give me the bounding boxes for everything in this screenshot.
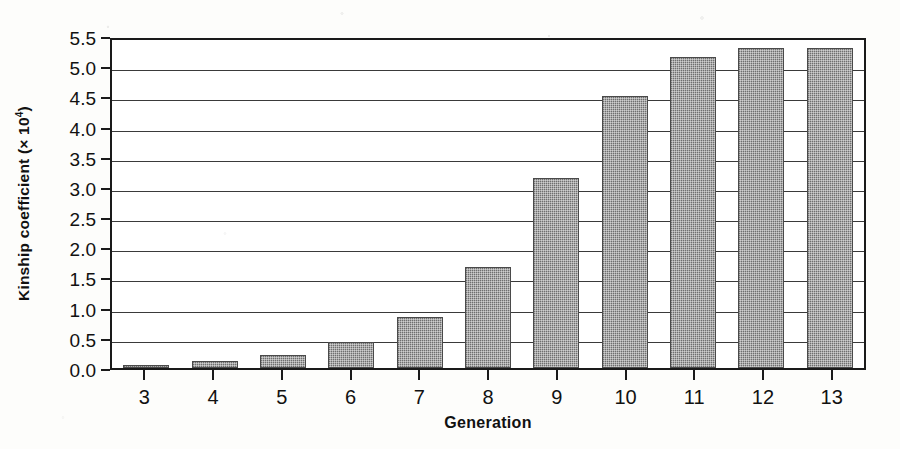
y-axis-tick-label: 1.0 [70,300,96,319]
x-axis-tick-label: 8 [454,384,523,410]
x-axis-tick-slot [385,370,454,384]
x-axis-tick-mark [212,370,214,380]
x-axis-tick-mark [281,370,283,380]
bar-slot [112,40,180,368]
y-axis-tick-mark [101,37,110,39]
x-axis-tick-labels: 345678910111213 [110,384,866,410]
x-axis-tick-slot [591,370,660,384]
y-axis-tick-mark [101,339,110,341]
x-axis-tick-mark [350,370,352,380]
x-axis-tick-mark [487,370,489,380]
y-axis-tick-label: 0.5 [70,330,96,349]
bar-slot [591,40,659,368]
x-axis-tick-label: 9 [522,384,591,410]
bar-chart-figure: Kinship coefficient (× 104) 0.00.51.01.5… [0,0,900,449]
x-axis-tick-slot [454,370,523,384]
y-axis-tick-label: 2.0 [70,240,96,259]
x-axis-tick-label: 5 [247,384,316,410]
bar[interactable] [192,361,238,368]
x-axis-tick-slot [179,370,248,384]
bar-slot [180,40,248,368]
bar-slot [522,40,590,368]
bar-slot [727,40,795,368]
y-axis-title-paren: ) [15,107,32,112]
x-axis-tick-mark [418,370,420,380]
bar-slot [317,40,385,368]
x-axis-tick-mark [762,370,764,380]
x-axis-tick-mark [693,370,695,380]
y-axis-title-main: Kinship coefficient (× 10 [15,118,32,302]
y-axis-tick-mark [101,67,110,69]
y-axis-tick-label: 2.5 [70,210,96,229]
x-axis-tick-slot [247,370,316,384]
y-axis-tick-mark [101,158,110,160]
x-axis-tick-slot [729,370,798,384]
y-axis-tick-label: 5.0 [70,59,96,78]
bar[interactable] [807,48,853,368]
bar[interactable] [602,96,648,368]
x-axis-tick-label: 11 [660,384,729,410]
x-axis-tick-label: 13 [797,384,866,410]
bar[interactable] [670,57,716,368]
y-axis-tick-label: 4.5 [70,89,96,108]
bar[interactable] [123,365,169,368]
y-axis-tick-mark [101,128,110,130]
y-axis-tick-label: 3.5 [70,149,96,168]
x-axis-tick-slot [797,370,866,384]
x-axis-tick-mark [625,370,627,380]
plot-area [110,38,866,370]
y-axis-tick-mark [101,188,110,190]
x-axis-tick-slot [316,370,385,384]
bar[interactable] [465,267,511,368]
y-axis-tick-mark [101,278,110,280]
y-axis-tick-label: 5.5 [70,29,96,48]
x-axis-tick-label: 6 [316,384,385,410]
x-axis-tick-slot [522,370,591,384]
x-axis-title: Generation [110,414,866,432]
y-axis-tick-mark [101,97,110,99]
x-axis-tick-label: 3 [110,384,179,410]
y-axis-tick-label: 0.0 [70,361,96,380]
x-axis-tick-marks [110,370,866,384]
x-axis-tick-mark [831,370,833,380]
y-axis-tick-mark [101,248,110,250]
x-axis-tick-slot [110,370,179,384]
y-axis-tick-mark [101,218,110,220]
bar[interactable] [328,342,374,368]
bar-slot [385,40,453,368]
y-axis-title-exponent: 4 [13,112,24,118]
bar-slot [659,40,727,368]
bar[interactable] [738,48,784,368]
bar-slot [796,40,864,368]
x-axis-tick-mark [143,370,145,380]
x-axis-tick-label: 10 [591,384,660,410]
y-axis-tick-mark [101,369,110,371]
bar[interactable] [397,317,443,368]
x-axis-tick-label: 4 [179,384,248,410]
bar-slot [454,40,522,368]
y-axis-title-text: Kinship coefficient (× 104) [13,107,32,302]
x-axis-tick-label: 7 [385,384,454,410]
bar[interactable] [260,355,306,368]
x-axis-tick-label: 12 [729,384,798,410]
y-axis-tick-label: 4.0 [70,119,96,138]
bar-series [112,40,864,368]
y-axis-title: Kinship coefficient (× 104) [6,38,40,370]
y-axis-tick-label: 1.5 [70,270,96,289]
bar[interactable] [533,178,579,368]
x-axis-tick-slot [660,370,729,384]
y-axis-tick-label: 3.0 [70,179,96,198]
x-axis-tick-mark [556,370,558,380]
y-axis-tick-labels: 0.00.51.01.52.02.53.03.54.04.55.05.5 [40,38,104,370]
bar-slot [249,40,317,368]
y-axis-tick-mark [101,309,110,311]
